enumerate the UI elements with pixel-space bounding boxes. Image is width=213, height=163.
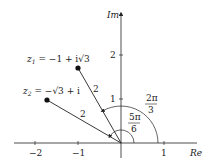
point-z2 <box>44 97 49 102</box>
length-label-z2: 2 <box>80 109 86 119</box>
segment-z1 <box>78 68 121 143</box>
label-z2: z2 = −√3 + i <box>22 86 80 97</box>
length-label-z1: 2 <box>93 84 99 94</box>
real-axis-label: Re <box>189 148 202 158</box>
y-tick-label: 2 <box>110 50 116 60</box>
point-z1 <box>75 65 80 70</box>
imaginary-axis-label: Im <box>106 10 119 20</box>
x-tick-label: −1 <box>72 148 85 158</box>
y-tick-label: 1 <box>110 94 116 104</box>
angle-5pi-6-num: 5π <box>129 112 141 122</box>
angle-2pi-3-den: 3 <box>148 105 154 115</box>
label-z1: z1 = −1 + i√3 <box>26 54 90 65</box>
diagram-canvas: −2 −1 1 1 2 Re Im 2 2 z1 = −1 + i√3 z2 =… <box>0 0 213 163</box>
angle-5pi-6-den: 6 <box>131 124 137 134</box>
angle-2pi-3-num: 2π <box>146 93 158 103</box>
complex-plane-diagram: −2 −1 1 1 2 Re Im 2 2 z1 = −1 + i√3 z2 =… <box>0 0 213 163</box>
segment-z2 <box>47 100 121 143</box>
x-tick-label: −2 <box>29 148 42 158</box>
x-tick-label: 1 <box>161 148 167 158</box>
